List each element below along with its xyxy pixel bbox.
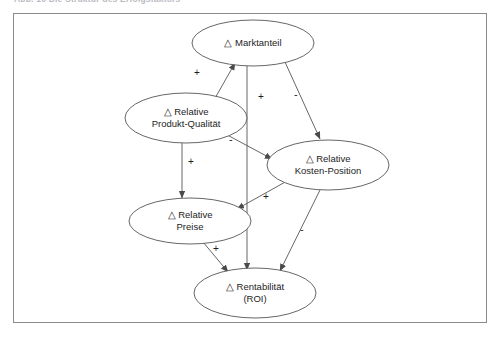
sign-qualitaet-to-preise: +	[188, 157, 194, 167]
node-rentabilitaet[interactable]	[194, 268, 316, 318]
sign-kosten-to-rentabilitaet: -	[300, 224, 304, 234]
sign-preise-to-rentabilitaet: +	[213, 244, 219, 254]
influence-diagram	[0, 0, 503, 338]
sign-qualitaet-to-kosten: -	[229, 134, 233, 144]
sign-marktanteil-to-kosten: -	[294, 89, 298, 99]
edge-qualitaet-to-marktanteil	[214, 63, 235, 100]
sign-kosten-to-preise: +	[263, 192, 269, 202]
node-marktanteil[interactable]	[192, 20, 314, 66]
sign-marktanteil-to-rentabilitaet: +	[258, 92, 264, 102]
edge-marktanteil-to-kosten	[285, 62, 320, 139]
diagram-nodes	[125, 20, 389, 318]
sign-qualitaet-to-marktanteil: +	[194, 68, 200, 78]
node-kosten-position[interactable]	[267, 140, 389, 190]
edge-kosten-to-preise	[237, 181, 287, 209]
node-preise[interactable]	[129, 198, 251, 244]
